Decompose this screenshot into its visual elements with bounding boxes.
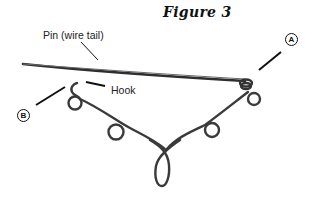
leader-hook bbox=[86, 82, 105, 86]
figure-title: Figure 3 bbox=[163, 4, 232, 20]
pin-label: Pin (wire tail) bbox=[43, 29, 104, 41]
callout-a: A bbox=[285, 33, 298, 46]
figure-3-diagram: Figure 3 Pin (wire tail) Hook A B bbox=[0, 0, 319, 199]
wire-body bbox=[69, 83, 261, 186]
leader-b bbox=[36, 87, 65, 105]
leader-pin bbox=[81, 42, 98, 60]
leader-a bbox=[259, 52, 281, 70]
callout-b: B bbox=[17, 109, 30, 122]
hook-label: Hook bbox=[111, 84, 136, 96]
